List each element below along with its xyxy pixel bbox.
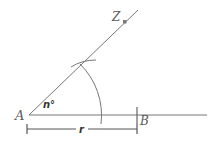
intersection-arc	[71, 60, 96, 67]
label-radius-r: r	[79, 124, 85, 135]
construction-diagram: A B Z n° r	[0, 0, 220, 146]
label-vertex-a: A	[14, 108, 24, 123]
label-point-z: Z	[111, 10, 121, 24]
label-point-b: B	[139, 114, 149, 128]
label-angle-n: n°	[43, 99, 55, 110]
point-z-marker	[123, 20, 127, 24]
